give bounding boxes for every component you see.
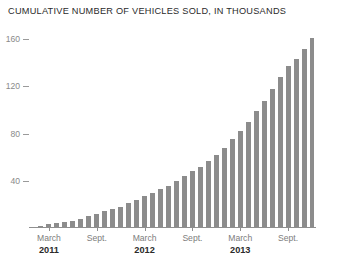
bar bbox=[302, 49, 307, 228]
bar bbox=[270, 89, 275, 228]
x-axis-tick-mark bbox=[192, 228, 193, 231]
y-axis-tick-label: 80 bbox=[10, 129, 20, 139]
x-axis-tick-label: March bbox=[37, 233, 61, 244]
bar bbox=[222, 148, 227, 228]
bar bbox=[110, 209, 115, 228]
bar bbox=[278, 77, 283, 228]
bar bbox=[158, 189, 163, 228]
y-axis-tick-label: 40 bbox=[10, 176, 20, 186]
bar-series bbox=[29, 25, 316, 228]
bar bbox=[94, 214, 99, 228]
bar bbox=[198, 167, 203, 228]
x-axis-ticks bbox=[29, 228, 316, 232]
bar bbox=[238, 131, 243, 228]
y-axis-tick: 120 bbox=[6, 81, 29, 91]
y-axis-tick: 160 bbox=[6, 34, 29, 44]
bar bbox=[102, 211, 107, 228]
bar bbox=[246, 122, 251, 228]
x-axis-tick-mark bbox=[240, 228, 241, 231]
x-axis-tick-mark bbox=[97, 228, 98, 231]
x-axis-year-label: 2012 bbox=[134, 245, 154, 256]
y-axis-tick: 40 bbox=[10, 176, 29, 186]
bar bbox=[174, 181, 179, 228]
bar bbox=[182, 176, 187, 228]
x-axis-labels: MarchSept.MarchSept.MarchSept.2011201220… bbox=[29, 233, 316, 259]
bar bbox=[286, 66, 291, 228]
plot-area bbox=[29, 25, 316, 228]
bar bbox=[134, 200, 139, 228]
y-axis-tick-label: 160 bbox=[6, 34, 20, 44]
x-axis-tick-label: March bbox=[228, 233, 252, 244]
bar bbox=[166, 186, 171, 228]
y-axis: 4080120160 bbox=[0, 25, 29, 228]
x-axis-tick-mark bbox=[49, 228, 50, 231]
bar bbox=[214, 155, 219, 228]
x-axis-tick-mark bbox=[145, 228, 146, 231]
bar bbox=[142, 196, 147, 228]
x-axis-year-label: 2013 bbox=[230, 245, 250, 256]
bar bbox=[254, 111, 259, 228]
x-axis-tick-label: March bbox=[133, 233, 157, 244]
y-axis-tick: 80 bbox=[10, 129, 29, 139]
bar bbox=[310, 38, 315, 228]
bar bbox=[262, 101, 267, 228]
bar bbox=[230, 139, 235, 228]
bar bbox=[206, 161, 211, 228]
bar bbox=[126, 203, 131, 228]
x-axis-tick-label: Sept. bbox=[278, 233, 298, 244]
x-axis-tick-label: Sept. bbox=[87, 233, 107, 244]
bar bbox=[150, 193, 155, 228]
bar bbox=[294, 59, 299, 228]
bar bbox=[118, 207, 123, 228]
vehicles-sold-bar-chart: CUMULATIVE NUMBER OF VEHICLES SOLD, IN T… bbox=[0, 0, 337, 261]
y-axis-tick-label: 120 bbox=[6, 81, 20, 91]
x-axis-year-label: 2011 bbox=[39, 245, 59, 256]
bar bbox=[190, 171, 195, 228]
x-axis-tick-mark bbox=[288, 228, 289, 231]
chart-title: CUMULATIVE NUMBER OF VEHICLES SOLD, IN T… bbox=[8, 6, 286, 17]
x-axis-tick-label: Sept. bbox=[182, 233, 202, 244]
